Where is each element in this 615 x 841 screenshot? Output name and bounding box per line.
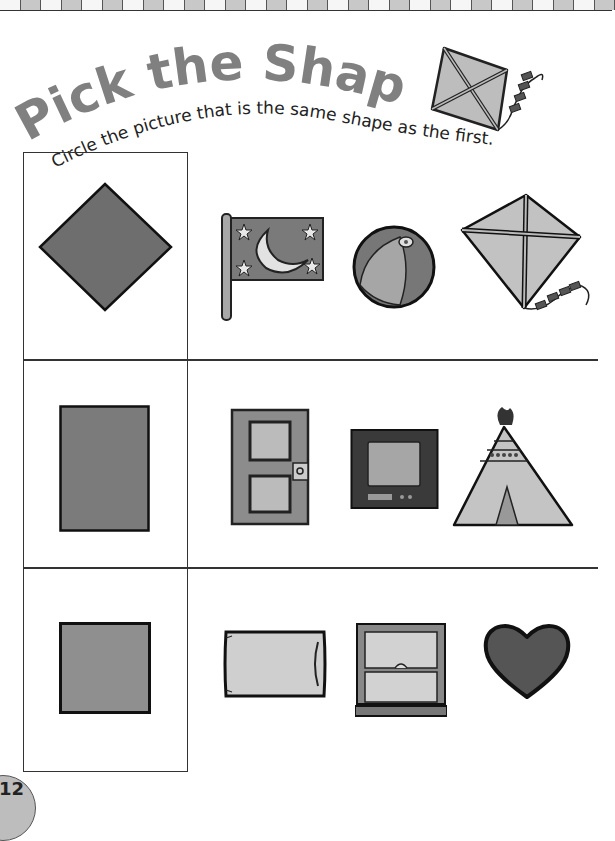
- checker-cell: [103, 0, 124, 10]
- checker-cell: [144, 0, 165, 10]
- title-block: Pick the Shape Circle the picture that i…: [0, 10, 612, 170]
- checker-cell: [328, 0, 349, 10]
- diamond-shape: [38, 182, 174, 314]
- row-divider: [23, 567, 598, 569]
- square-shape: [59, 622, 151, 714]
- checker-cell: [410, 0, 431, 10]
- checker-cell: [226, 0, 247, 10]
- beach-ball-icon[interactable]: [350, 225, 440, 309]
- checker-cell: [21, 0, 42, 10]
- checker-cell: [390, 0, 411, 10]
- checker-cell: [472, 0, 493, 10]
- checker-cell: [349, 0, 370, 10]
- checker-cell: [246, 0, 267, 10]
- checker-cell: [62, 0, 83, 10]
- checker-cell: [164, 0, 185, 10]
- page-title: Pick the Shape: [0, 10, 413, 152]
- checker-cell: [185, 0, 206, 10]
- kite-icon[interactable]: [454, 190, 604, 320]
- checker-cell: [533, 0, 554, 10]
- checker-cell: [267, 0, 288, 10]
- page-number: 12: [0, 778, 24, 799]
- page-number-badge: 12: [0, 775, 36, 841]
- rectangle-shape: [59, 405, 150, 533]
- checker-cell: [287, 0, 308, 10]
- checker-cell: [0, 0, 21, 10]
- tv-icon[interactable]: [350, 428, 440, 512]
- checker-cell: [82, 0, 103, 10]
- checker-cell: [451, 0, 472, 10]
- window-icon[interactable]: [355, 622, 447, 718]
- kite-icon: [432, 48, 543, 130]
- checker-cell: [308, 0, 329, 10]
- teepee-icon[interactable]: [452, 405, 577, 530]
- door-icon[interactable]: [230, 408, 310, 528]
- checker-cell: [431, 0, 452, 10]
- checker-cell: [574, 0, 595, 10]
- heart-icon[interactable]: [482, 617, 572, 701]
- checker-cell: [595, 0, 615, 10]
- checker-cell: [554, 0, 575, 10]
- checker-cell: [123, 0, 144, 10]
- checker-cell: [369, 0, 390, 10]
- checker-cell: [492, 0, 513, 10]
- checker-cell: [513, 0, 534, 10]
- checker-cell: [205, 0, 226, 10]
- checker-cell: [41, 0, 62, 10]
- pillow-icon[interactable]: [222, 628, 328, 700]
- flag-icon[interactable]: [218, 210, 328, 325]
- row-divider: [23, 359, 598, 361]
